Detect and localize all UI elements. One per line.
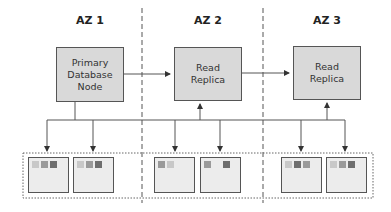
- az-label: AZ 2: [178, 14, 238, 27]
- status-square-icon: [32, 161, 39, 168]
- read-replica-node: Read Replica: [174, 47, 242, 101]
- status-square-icon: [330, 161, 337, 168]
- status-square-icon: [50, 161, 57, 168]
- status-square-icon: [158, 161, 165, 168]
- status-square-icon: [294, 161, 301, 168]
- app-instance: [281, 157, 322, 193]
- status-square-icon: [204, 161, 211, 168]
- status-square-icon: [167, 161, 174, 168]
- status-square-icon: [348, 161, 355, 168]
- primary-database-node: Primary Database Node: [56, 47, 124, 102]
- app-instance: [200, 157, 241, 193]
- node-label-line: Replica: [191, 74, 225, 86]
- az-label: AZ 3: [297, 14, 357, 27]
- app-instance: [28, 157, 69, 193]
- az-label: AZ 1: [60, 14, 120, 27]
- app-instance: [154, 157, 195, 193]
- status-square-icon: [303, 161, 310, 168]
- node-label-line: Database: [67, 69, 112, 81]
- node-label-line: Node: [67, 81, 112, 93]
- status-square-icon: [339, 161, 346, 168]
- app-instance: [326, 157, 367, 193]
- status-square-icon: [285, 161, 292, 168]
- node-label-line: Read: [191, 62, 225, 74]
- status-square-icon: [223, 161, 230, 168]
- node-label-line: Read: [310, 61, 344, 73]
- read-replica-node: Read Replica: [293, 46, 361, 100]
- status-square-icon: [86, 161, 93, 168]
- app-instance: [73, 157, 114, 193]
- status-square-icon: [77, 161, 84, 168]
- node-label-line: Primary: [67, 57, 112, 69]
- status-square-icon: [41, 161, 48, 168]
- node-label-line: Replica: [310, 73, 344, 85]
- status-square-icon: [95, 161, 102, 168]
